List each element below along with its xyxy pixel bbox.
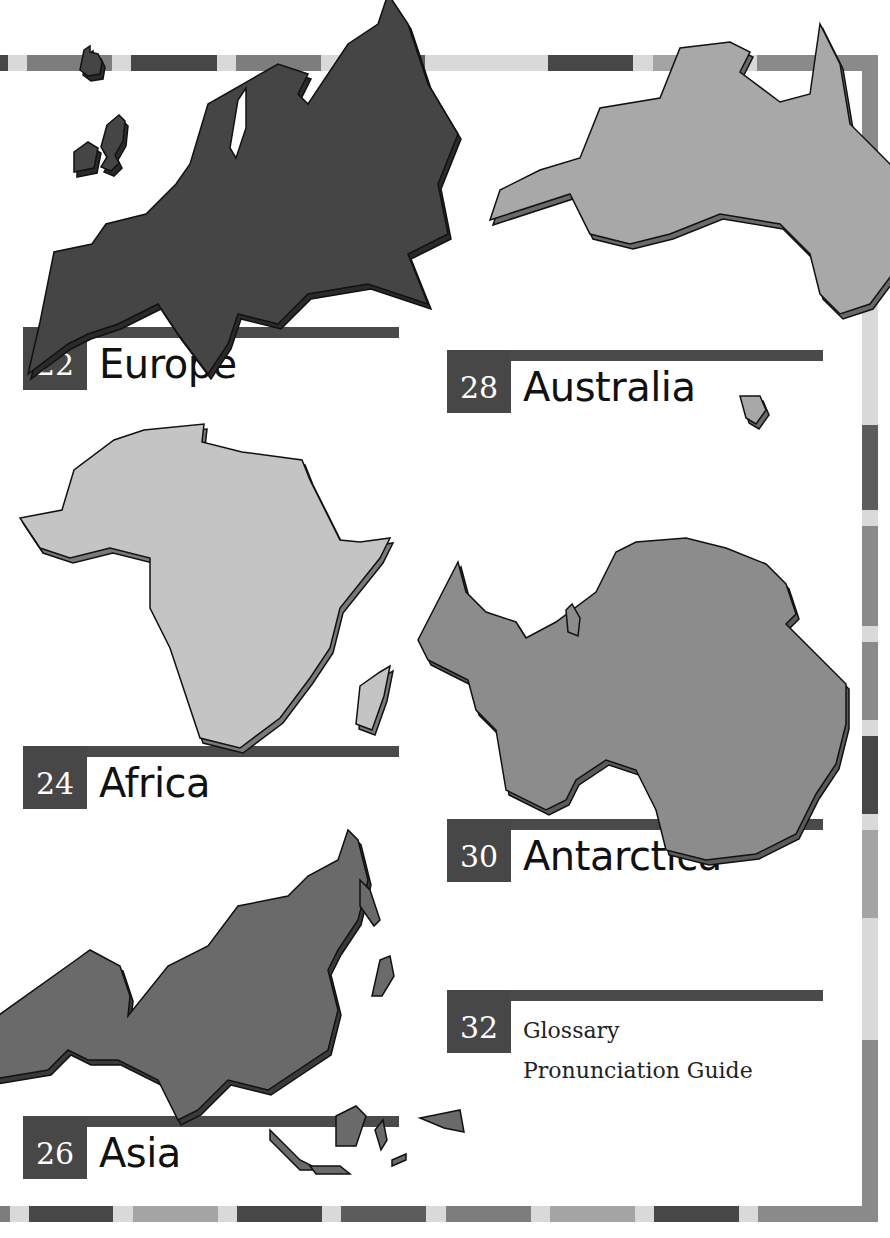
asia-mainland xyxy=(0,830,368,1120)
entry-subtitle: Pronunciation Guide xyxy=(523,1056,753,1086)
entry-title: Glossary xyxy=(523,1016,620,1046)
border-segment xyxy=(758,1206,878,1222)
java-island xyxy=(310,1166,350,1174)
border-segment xyxy=(426,1206,446,1222)
border-segment xyxy=(862,918,878,1040)
border-segment xyxy=(10,1206,29,1222)
border-segment xyxy=(237,1206,322,1222)
border-segment xyxy=(133,1206,218,1222)
japan-islands xyxy=(372,956,394,996)
asia-map[interactable] xyxy=(0,0,480,1180)
asia-shape xyxy=(0,830,464,1174)
border-segment xyxy=(654,1206,739,1222)
border-segment xyxy=(113,1206,133,1222)
border-segment xyxy=(341,1206,426,1222)
timor-island xyxy=(392,1154,406,1166)
borneo-island xyxy=(336,1106,366,1146)
sulawesi-island xyxy=(375,1120,387,1150)
border-segment xyxy=(862,1040,878,1222)
border-segment xyxy=(29,1206,113,1222)
new-guinea-island xyxy=(420,1110,464,1132)
sumatra-island xyxy=(270,1130,320,1170)
border-segment xyxy=(218,1206,237,1222)
border-segment xyxy=(0,1206,10,1222)
border-segment xyxy=(550,1206,635,1222)
antarctica-mainland xyxy=(418,538,846,860)
border-segment xyxy=(322,1206,341,1222)
border-segment xyxy=(739,1206,758,1222)
border-segment xyxy=(446,1206,531,1222)
antarctica-shape xyxy=(418,538,846,860)
border-segment xyxy=(635,1206,654,1222)
border-segment xyxy=(862,830,878,918)
border-segment xyxy=(531,1206,550,1222)
